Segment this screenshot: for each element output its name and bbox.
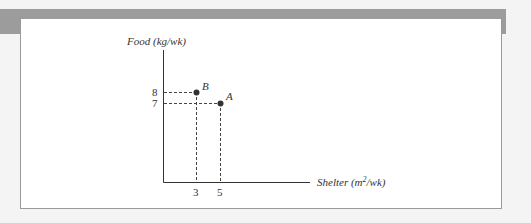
y-tick-7: 7 [152,97,158,109]
bundle-diagram: Food (kg/wk) Shelter (m2/wk) B A 8 7 3 5 [0,0,531,223]
x-tick-5: 5 [217,186,223,198]
x-axis-label: Shelter (m2/wk) [317,175,386,189]
point-b-label: B [202,80,209,92]
point-a [218,101,224,107]
x-tick-3: 3 [193,186,199,198]
point-b [194,90,200,96]
point-a-label: A [225,90,233,102]
y-axis-label: Food (kg/wk) [126,35,186,48]
